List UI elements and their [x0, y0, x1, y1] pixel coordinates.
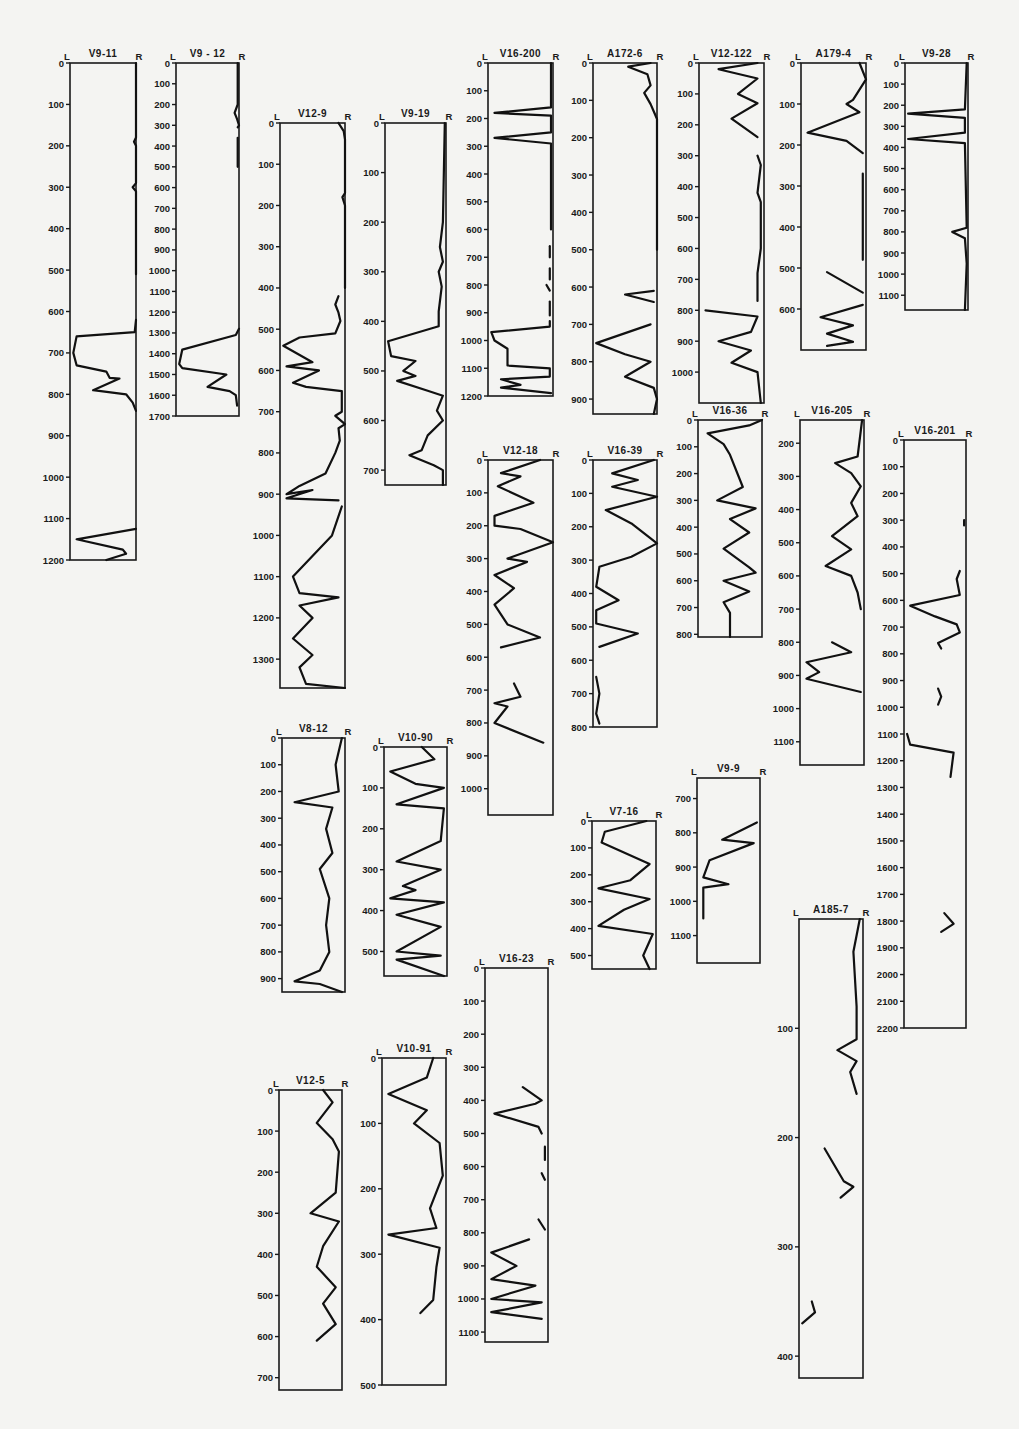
- y-tick-label: 1200: [461, 391, 482, 402]
- y-tick-label: 200: [677, 119, 693, 130]
- y-tick-label: 500: [571, 621, 587, 632]
- y-tick-label: 200: [154, 99, 170, 110]
- log-curve: [283, 296, 345, 500]
- core-panel-v9-19: V9-19LR0100200300400500600700: [363, 108, 452, 485]
- y-tick-label: 1000: [773, 703, 794, 714]
- y-tick-label: 900: [258, 489, 274, 500]
- y-tick-label: 0: [373, 742, 378, 753]
- y-tick-label: 200: [571, 521, 587, 532]
- left-axis-label: L: [273, 1078, 279, 1089]
- panel-frame: [698, 420, 762, 637]
- y-tick-label: 2100: [877, 996, 898, 1007]
- y-tick-label: 1000: [461, 335, 482, 346]
- y-tick-label: 1500: [877, 835, 898, 846]
- y-tick-label: 400: [362, 905, 378, 916]
- core-panel-v7-16: V7-16LR0100200300400500: [570, 806, 662, 969]
- y-tick-label: 400: [779, 222, 795, 233]
- core-panel-v9-11: V9-11LR010020030040050060070080090010001…: [43, 48, 143, 566]
- y-tick-label: 100: [260, 759, 276, 770]
- y-tick-label: 200: [466, 113, 482, 124]
- log-curve: [495, 460, 554, 647]
- core-panel-v10-91: V10-91LR0100200300400500: [360, 1043, 452, 1391]
- y-tick-label: 0: [474, 963, 479, 974]
- log-curve: [806, 642, 860, 692]
- y-tick-label: 700: [883, 205, 899, 216]
- right-axis-label: R: [863, 907, 870, 918]
- y-tick-label: 2200: [877, 1023, 898, 1034]
- panel-title: V16-205: [811, 405, 852, 416]
- log-curve: [77, 529, 136, 560]
- y-tick-label: 900: [260, 973, 276, 984]
- log-curve: [703, 823, 757, 919]
- panel-title: V8-12: [299, 723, 328, 734]
- panel-frame: [799, 919, 863, 1378]
- log-curve: [625, 291, 654, 302]
- core-panel-v16-205: V16-205LR2003004005006007008009001000110…: [773, 405, 871, 765]
- left-axis-label: L: [793, 907, 799, 918]
- y-tick-label: 400: [463, 1095, 479, 1106]
- left-axis-label: L: [691, 766, 697, 777]
- y-tick-label: 300: [363, 266, 379, 277]
- panel-frame: [800, 420, 864, 765]
- y-tick-label: 400: [883, 142, 899, 153]
- y-tick-label: 1100: [878, 290, 899, 301]
- log-curve: [73, 320, 136, 411]
- y-tick-label: 1700: [149, 411, 170, 422]
- y-tick-label: 100: [466, 85, 482, 96]
- y-tick-label: 300: [154, 120, 170, 131]
- y-tick-label: 300: [779, 181, 795, 192]
- log-curve: [596, 460, 657, 647]
- right-axis-label: R: [656, 809, 663, 820]
- y-tick-label: 700: [675, 793, 691, 804]
- y-tick-label: 600: [677, 243, 693, 254]
- left-axis-label: L: [378, 735, 384, 746]
- y-tick-label: 600: [363, 415, 379, 426]
- log-curve: [808, 63, 867, 153]
- log-curve: [826, 420, 863, 609]
- y-tick-label: 300: [466, 553, 482, 564]
- y-tick-label: 100: [48, 99, 64, 110]
- core-panel-v16-39: V16-39LR0100200300400500600700800: [571, 445, 663, 733]
- y-tick-label: 800: [154, 224, 170, 235]
- y-tick-label: 400: [360, 1314, 376, 1325]
- y-tick-label: 300: [571, 555, 587, 566]
- log-curve: [941, 913, 953, 932]
- y-tick-label: 600: [257, 1331, 273, 1342]
- y-tick-label: 700: [571, 319, 587, 330]
- y-tick-label: 0: [477, 455, 482, 466]
- right-axis-label: R: [760, 766, 767, 777]
- y-tick-label: 700: [257, 1372, 273, 1383]
- y-tick-label: 1300: [253, 654, 274, 665]
- y-tick-label: 500: [257, 1290, 273, 1301]
- y-tick-label: 300: [258, 241, 274, 252]
- y-tick-label: 400: [778, 504, 794, 515]
- panel-frame: [904, 440, 966, 1028]
- y-tick-label: 200: [48, 140, 64, 151]
- left-axis-label: L: [479, 956, 485, 967]
- log-curve: [494, 1087, 541, 1133]
- y-tick-label: 900: [677, 336, 693, 347]
- core-panel-v12-122: V12-122LR0100200300400500600700800900100…: [672, 48, 771, 403]
- panel-title: V16-200: [500, 48, 541, 59]
- y-tick-label: 900: [154, 244, 170, 255]
- y-tick-label: 600: [676, 575, 692, 586]
- y-tick-label: 1700: [877, 889, 898, 900]
- log-curve: [388, 1058, 442, 1313]
- panel-title: A185-7: [813, 904, 849, 915]
- y-tick-label: 300: [362, 864, 378, 875]
- log-curve: [758, 156, 761, 301]
- y-tick-label: 800: [466, 280, 482, 291]
- y-tick-label: 300: [570, 896, 586, 907]
- y-tick-label: 300: [360, 1249, 376, 1260]
- y-tick-label: 1500: [149, 369, 170, 380]
- y-tick-label: 500: [466, 196, 482, 207]
- y-tick-label: 600: [466, 652, 482, 663]
- y-tick-label: 500: [779, 263, 795, 274]
- y-tick-label: 0: [790, 58, 795, 69]
- panel-frame: [385, 123, 446, 485]
- log-curve: [293, 507, 345, 689]
- log-curve: [491, 1239, 541, 1318]
- y-tick-label: 800: [571, 356, 587, 367]
- y-tick-label: 300: [466, 141, 482, 152]
- y-tick-label: 100: [257, 1126, 273, 1137]
